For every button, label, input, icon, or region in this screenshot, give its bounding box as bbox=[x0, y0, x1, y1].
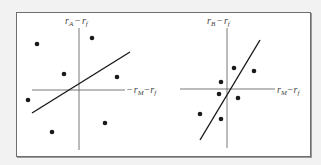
data-point bbox=[219, 80, 224, 85]
panel-a-x-axis-label: −rM−rf bbox=[126, 84, 157, 97]
data-point bbox=[236, 96, 241, 101]
panel-b: rB−rf rM−rf bbox=[180, 15, 300, 148]
data-point bbox=[232, 66, 237, 71]
panel-a-points bbox=[26, 36, 120, 135]
panel-a-y-axis-label: rA−rf bbox=[65, 15, 89, 28]
panel-b-x-axis-label: rM−rf bbox=[277, 84, 300, 97]
data-point bbox=[50, 130, 55, 135]
data-point bbox=[115, 75, 120, 80]
data-point bbox=[198, 112, 203, 117]
data-point bbox=[90, 36, 95, 41]
data-point bbox=[103, 121, 108, 126]
data-point bbox=[252, 69, 257, 74]
panel-a-regression-line bbox=[32, 52, 130, 113]
panel-a: rA−rf −rM−rf bbox=[26, 15, 157, 150]
panel-b-y-axis-label: rB−rf bbox=[207, 15, 231, 28]
data-point bbox=[26, 98, 31, 103]
data-point bbox=[62, 72, 67, 77]
data-point bbox=[219, 117, 224, 122]
characteristic-lines-diagram: rA−rf −rM−rf rB−rf rM−rf bbox=[0, 0, 321, 165]
data-point bbox=[217, 92, 222, 97]
panel-b-regression-line bbox=[200, 40, 260, 140]
data-point bbox=[35, 42, 40, 47]
